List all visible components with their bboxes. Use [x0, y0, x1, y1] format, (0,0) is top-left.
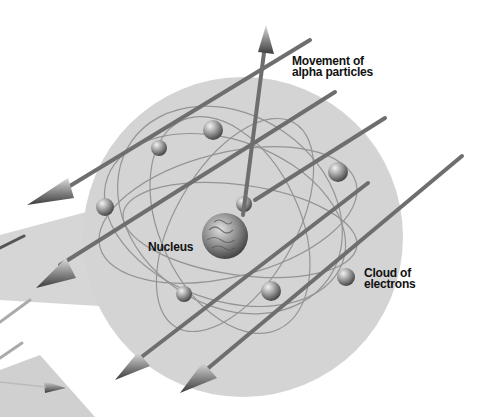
- electron: [96, 198, 114, 216]
- nucleus-label: Nucleus: [148, 242, 193, 253]
- electron: [337, 268, 355, 286]
- electron: [151, 140, 167, 156]
- alpha-particles-label: Movement of alpha particles: [292, 56, 373, 78]
- diagram-canvas: [0, 0, 481, 417]
- electron: [261, 281, 281, 301]
- atom-diagram: Movement of alpha particles Nucleus Clou…: [0, 0, 481, 417]
- electron-cloud-label: Cloud of electrons: [364, 268, 416, 290]
- electron: [176, 286, 192, 302]
- alpha-label-line2: alpha particles: [292, 67, 373, 78]
- cloud-label-line2: electrons: [364, 279, 416, 290]
- electron: [328, 162, 348, 182]
- nucleus: [202, 213, 248, 259]
- electron: [203, 120, 223, 140]
